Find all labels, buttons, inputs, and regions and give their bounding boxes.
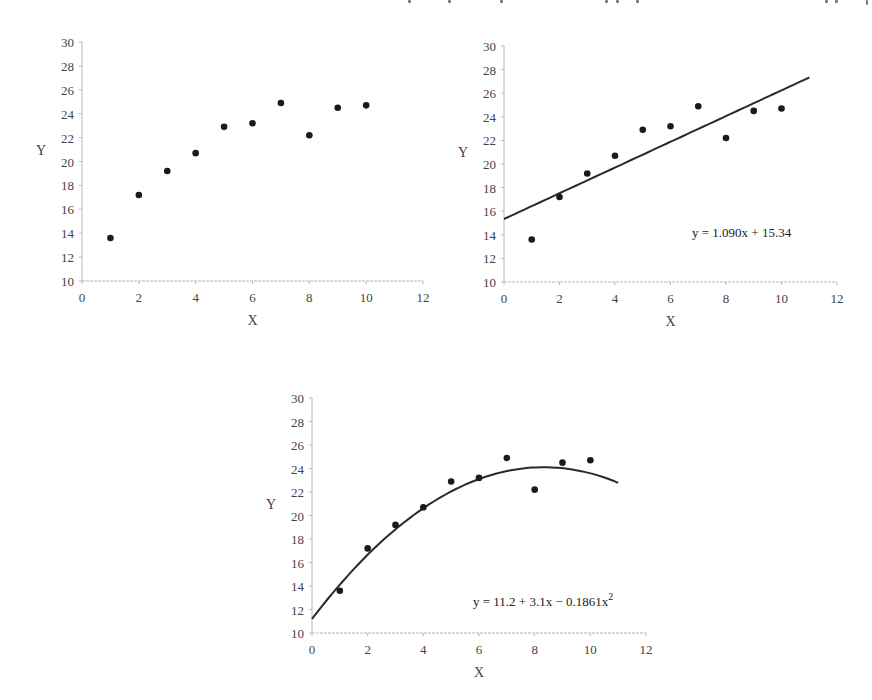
data-point (559, 459, 566, 466)
data-point (448, 478, 455, 485)
x-tick-label: 10 (584, 642, 597, 657)
y-tick-label: 18 (291, 532, 304, 547)
y-tick-label: 30 (291, 391, 304, 406)
y-tick-label: 14 (291, 579, 305, 594)
scatter-chart-quadratic-fit: 1012141618202224262830024681012XYy = 11.… (0, 0, 872, 700)
data-point (337, 587, 344, 594)
y-tick-label: 12 (291, 603, 304, 618)
x-tick-label: 12 (640, 642, 653, 657)
data-point (504, 455, 511, 462)
data-point (476, 475, 483, 482)
y-axis-title: Y (266, 497, 276, 512)
data-point (587, 457, 594, 464)
axes: 1012141618202224262830024681012 (291, 391, 653, 657)
data-point (392, 522, 399, 529)
data-point (531, 486, 538, 493)
x-axis-title: X (474, 665, 484, 680)
data-points (337, 455, 594, 594)
y-tick-label: 22 (291, 485, 304, 500)
data-point (420, 504, 427, 511)
x-tick-label: 0 (309, 642, 316, 657)
y-tick-label: 16 (291, 556, 305, 571)
y-tick-label: 10 (291, 626, 304, 641)
x-tick-label: 2 (364, 642, 371, 657)
y-tick-label: 26 (291, 438, 305, 453)
x-tick-label: 8 (531, 642, 538, 657)
fit-equation: y = 11.2 + 3.1x − 0.1861x2 (473, 591, 613, 609)
x-tick-label: 6 (476, 642, 483, 657)
x-tick-label: 4 (420, 642, 427, 657)
data-point (364, 545, 371, 552)
y-tick-label: 28 (291, 415, 304, 430)
y-tick-label: 20 (291, 509, 304, 524)
y-tick-label: 24 (291, 462, 305, 477)
